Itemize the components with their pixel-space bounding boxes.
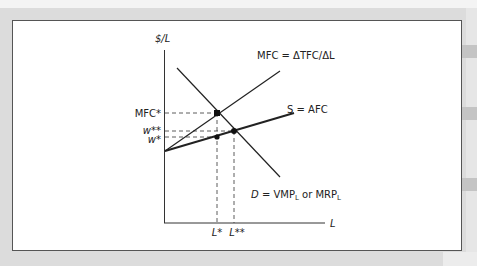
l-dstar-label: L** (229, 227, 245, 238)
mfc-curve (165, 71, 280, 151)
guide-lines (165, 113, 234, 223)
w-star-label: w* (148, 134, 161, 145)
supply-curve (165, 113, 294, 151)
x-axis-label: L (330, 218, 336, 229)
y-axis-label: $/L (155, 33, 170, 44)
demand-curve-label: D = VMPL or MRPL (251, 189, 341, 202)
l-star-label: L* (212, 227, 223, 238)
supply-demand-point (231, 128, 237, 134)
w-star-point (214, 134, 219, 139)
supply-curve-label: S = AFC (287, 104, 328, 115)
mfc-curve-label: MFC = ΔTFC/ΔL (257, 50, 335, 61)
mfc-demand-point (214, 110, 220, 116)
monopsony-chart: $/L L MFC = ΔTFC/ΔL S = AFC D = VMPL or … (0, 0, 477, 266)
mfc-star-label: MFC* (135, 108, 161, 119)
